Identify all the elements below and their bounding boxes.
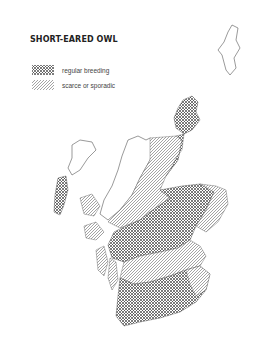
lewis-harris [68, 140, 96, 175]
arran-kintyre [108, 258, 118, 290]
uist-islands [54, 176, 68, 215]
scotland-map [0, 0, 260, 362]
shetland-islands [218, 25, 240, 75]
skye [80, 194, 100, 216]
mull [84, 222, 104, 240]
islay-jura [96, 246, 108, 276]
orkney-islands [174, 96, 200, 134]
